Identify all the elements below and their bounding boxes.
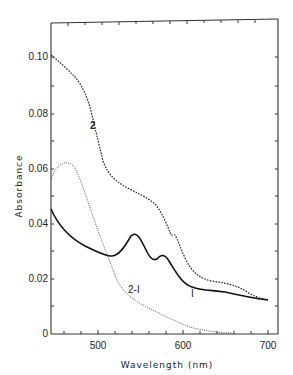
curve-label-1: I	[191, 288, 194, 299]
y-tick-0.10: 0.10	[29, 51, 49, 62]
x-tick-labels: 500 600 700	[90, 340, 277, 351]
y-tick-labels: 0 0.02 0.04 0.06 0.08 0.10	[29, 51, 49, 339]
plot-frame	[51, 19, 278, 334]
y-tick-0: 0	[42, 328, 48, 339]
x-tick-600: 600	[175, 340, 192, 351]
curve-2-1-dotted	[51, 163, 232, 333]
y-tick-0.08: 0.08	[29, 108, 49, 119]
x-tick-700: 700	[260, 340, 277, 351]
x-tick-500: 500	[90, 340, 107, 351]
x-ticks	[64, 20, 268, 334]
absorbance-chart: 500 600 700 0 0.02 0.04 0.06 0.08 0.10 W…	[0, 0, 293, 375]
y-tick-0.04: 0.04	[29, 218, 49, 229]
curve-label-2-1: 2-I	[128, 284, 140, 295]
y-tick-0.02: 0.02	[29, 273, 49, 284]
x-axis-title: Wavelength (nm)	[121, 360, 214, 370]
y-axis-title: Absorbance	[14, 154, 24, 217]
curve-2-dashed	[51, 55, 268, 300]
curve-label-2: 2	[90, 120, 96, 131]
y-tick-0.06: 0.06	[29, 163, 49, 174]
